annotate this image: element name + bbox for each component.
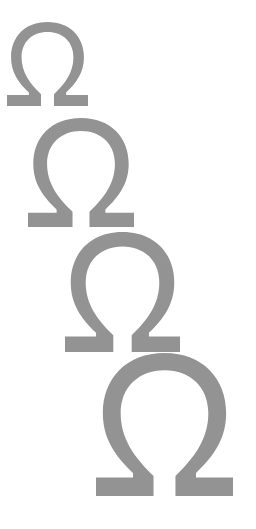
omega-icon-4 xyxy=(96,353,233,496)
omega-icon-3 xyxy=(65,232,180,352)
omega-icon-2 xyxy=(28,118,134,227)
omega-icon-1 xyxy=(7,22,88,106)
